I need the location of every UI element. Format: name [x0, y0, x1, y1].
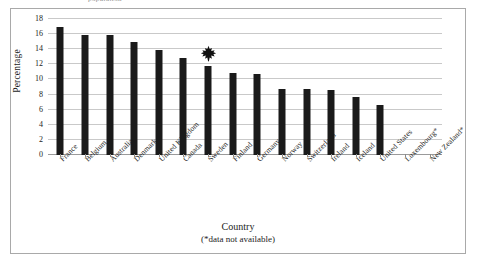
- y-tick-label-8: 8: [39, 91, 43, 99]
- x-axis-tick-labels: FranceBelgiumAustraliaDenmarkUnited King…: [48, 157, 442, 215]
- bar-slot: [48, 19, 73, 155]
- bar-slot: [294, 19, 319, 155]
- bar-australia[interactable]: [106, 35, 113, 155]
- bar-slot: [196, 19, 221, 155]
- y-tick-label-4: 4: [39, 121, 43, 129]
- bar-slot: [122, 19, 147, 155]
- bar-denmark[interactable]: [131, 42, 138, 155]
- bar-slot: [270, 19, 295, 155]
- bar-iceland[interactable]: [352, 97, 359, 155]
- y-tick-label-2: 2: [39, 136, 43, 144]
- bar-slot: [344, 19, 369, 155]
- bar-slot: [73, 19, 98, 155]
- bar-united-kingdom[interactable]: [155, 50, 162, 155]
- bar-slot: [147, 19, 172, 155]
- y-tick-label-14: 14: [35, 45, 43, 53]
- x-axis-title-note: (*data not available): [10, 234, 466, 245]
- x-axis-title: Country (*data not available): [10, 221, 466, 245]
- bar-united-states[interactable]: [377, 105, 384, 155]
- y-axis-title: Percentage: [12, 36, 22, 106]
- y-axis-tick-labels: 181614121086420: [22, 19, 46, 155]
- y-tick-label-18: 18: [35, 15, 43, 23]
- bar-slot: [245, 19, 270, 155]
- y-tick-label-0: 0: [39, 151, 43, 159]
- bar-slot: [220, 19, 245, 155]
- bar-belgium[interactable]: [81, 35, 88, 155]
- y-tick-label-6: 6: [39, 106, 43, 114]
- y-tick-label-12: 12: [35, 60, 43, 68]
- plot-area: [48, 19, 442, 155]
- clipped-header-label: population: [88, 0, 122, 3]
- bar-slot: [368, 19, 393, 155]
- x-axis-title-main: Country: [10, 221, 466, 234]
- bar-sweden[interactable]: [205, 66, 212, 155]
- maple-leaf-icon: [200, 45, 217, 62]
- y-tick-label-10: 10: [35, 75, 43, 83]
- bar-finland[interactable]: [229, 73, 236, 155]
- bar-slot: [97, 19, 122, 155]
- y-tick-label-16: 16: [35, 30, 43, 38]
- bar-germany[interactable]: [254, 74, 261, 155]
- clipped-header-text: population: [0, 0, 484, 7]
- bar-france[interactable]: [57, 27, 64, 155]
- bars-layer: [48, 19, 442, 155]
